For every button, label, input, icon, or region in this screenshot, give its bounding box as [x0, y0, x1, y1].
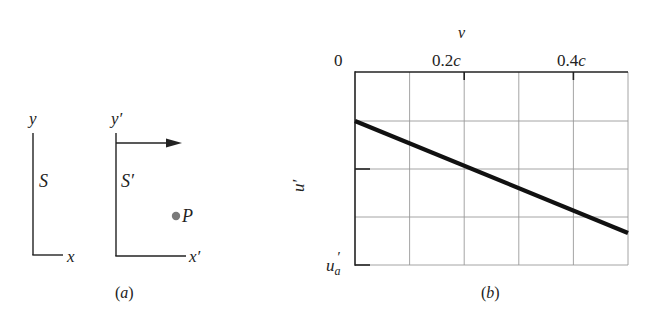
figure: y x S y′ x′ S′ P (a): [0, 0, 657, 321]
s-prime-x-label: x′: [188, 247, 201, 266]
y-axis-label-u-prime: u′: [289, 180, 308, 193]
s-frame-label: S: [39, 171, 48, 191]
x-tick-label-0: 0: [334, 51, 343, 70]
data-line: [355, 121, 628, 233]
s-prime-frame-label: S′: [121, 171, 135, 191]
x-tick-label-0.2c: 0.2c: [432, 51, 461, 70]
x-tick-label-0.4c: 0.4c: [557, 51, 586, 70]
caption-a: (a): [115, 284, 134, 302]
s-y-label: y: [27, 109, 37, 128]
frame-s: y x S: [27, 109, 75, 266]
panel-b-chart: v 0 0.2c 0.4c u′ ua′ (b): [289, 24, 628, 302]
s-prime-y-label: y′: [109, 109, 123, 128]
point-p-dot: [172, 212, 180, 220]
grid: [355, 72, 628, 265]
s-x-label: x: [66, 247, 75, 266]
x-axis-label-v: v: [458, 24, 466, 41]
frame-s-prime: y′ x′ S′ P: [109, 109, 201, 266]
caption-b: (b): [481, 284, 500, 302]
velocity-arrow-icon: [166, 139, 182, 148]
panel-a: y x S y′ x′ S′ P (a): [27, 109, 201, 302]
point-p-label: P: [181, 206, 193, 226]
y-tick-label-ua-prime: ua′: [326, 249, 341, 278]
